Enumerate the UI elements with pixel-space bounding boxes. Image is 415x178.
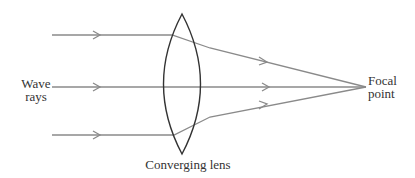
lower-ray (52, 87, 366, 135)
wave-rays-label: Wave rays (18, 77, 54, 103)
arrow-icon (259, 101, 267, 109)
lens-label: Converging lens (138, 158, 238, 171)
lens-diagram (0, 0, 415, 178)
wave-rays-line2: rays (18, 90, 54, 103)
upper-ray (52, 35, 366, 87)
focal-line2: point (368, 87, 408, 100)
focal-point-label: Focal point (368, 74, 408, 100)
